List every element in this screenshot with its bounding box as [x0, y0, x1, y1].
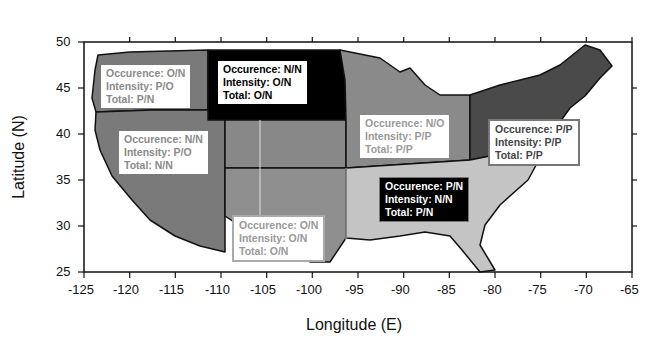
occurrence-text: Occurence: N/N — [124, 133, 203, 146]
total-text: Total: N/N — [124, 159, 203, 172]
intensity-text: Intensity: P/P — [365, 130, 444, 143]
x-tick-label: -90 — [391, 282, 410, 297]
label-northeast: Occurence: P/P Intensity: P/P Total: P/P — [488, 119, 580, 166]
y-tick-label: 45 — [56, 80, 70, 95]
intensity-text: Intensity: P/O — [124, 146, 203, 159]
label-midwest: Occurence: N/O Intensity: P/P Total: P/P — [360, 115, 449, 158]
label-southwest: Occurence: N/N Intensity: P/O Total: N/N — [119, 131, 208, 174]
total-text: Total: P/N — [106, 93, 185, 106]
y-tick-label: 25 — [56, 264, 70, 279]
occurrence-text: Occurence: O/N — [106, 67, 185, 80]
label-southeast: Occurence: P/N Intensity: N/N Total: P/N — [379, 177, 469, 222]
label-northwest: Occurence: O/N Intensity: P/O Total: P/N — [101, 65, 190, 108]
map-figure — [0, 0, 667, 361]
intensity-text: Intensity: P/O — [106, 80, 185, 93]
x-axis-title: Longitude (E) — [306, 316, 402, 334]
x-tick-label: -125 — [68, 282, 94, 297]
label-northern-great-plains: Occurence: N/N Intensity: O/N Total: O/N — [217, 60, 308, 105]
total-text: Total: P/P — [495, 149, 573, 162]
x-tick-label: -70 — [574, 282, 593, 297]
x-tick-label: -95 — [345, 282, 364, 297]
x-tick-label: -75 — [528, 282, 547, 297]
total-text: Total: O/N — [239, 245, 318, 258]
intensity-text: Intensity: P/P — [495, 136, 573, 149]
y-tick-label: 35 — [56, 172, 70, 187]
occurrence-text: Occurence: P/P — [495, 123, 573, 136]
x-tick-label: -80 — [483, 282, 502, 297]
occurrence-text: Occurence: P/N — [385, 180, 463, 193]
occurrence-text: Occurence: N/O — [365, 117, 444, 130]
x-tick-label: -85 — [437, 282, 456, 297]
total-text: Total: P/P — [365, 143, 444, 156]
label-southern-great-plains: Occurence: O/N Intensity: O/N Total: O/N — [232, 215, 325, 262]
intensity-text: Intensity: O/N — [223, 76, 302, 89]
y-axis-title: Latitude (N) — [10, 115, 28, 199]
x-tick-label: -100 — [296, 282, 322, 297]
total-text: Total: P/N — [385, 206, 463, 219]
intensity-text: Intensity: O/N — [239, 232, 318, 245]
occurrence-text: Occurence: N/N — [223, 63, 302, 76]
y-tick-label: 40 — [56, 126, 70, 141]
x-tick-label: -65 — [620, 282, 639, 297]
x-tick-label: -120 — [113, 282, 139, 297]
y-tick-label: 30 — [56, 218, 70, 233]
occurrence-text: Occurence: O/N — [239, 219, 318, 232]
region-central-plains — [225, 120, 346, 168]
x-tick-label: -105 — [250, 282, 276, 297]
total-text: Total: O/N — [223, 89, 302, 102]
intensity-text: Intensity: N/N — [385, 193, 463, 206]
y-tick-label: 50 — [56, 34, 70, 49]
x-tick-label: -110 — [205, 282, 230, 297]
x-tick-label: -115 — [159, 282, 184, 297]
